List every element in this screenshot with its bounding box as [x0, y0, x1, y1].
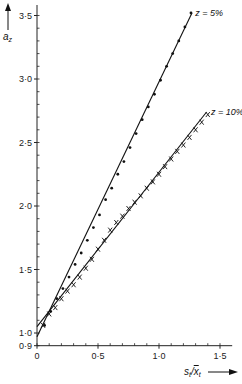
- data-point-cross: [59, 296, 63, 301]
- data-point-dot: [68, 276, 71, 279]
- data-point-cross: [139, 193, 143, 198]
- data-point-cross: [188, 135, 192, 140]
- data-point-dot: [141, 118, 144, 121]
- svg-text:st/xt: st/xt: [184, 366, 202, 378]
- data-point-cross: [53, 305, 57, 310]
- y-tick-label: 1·5: [19, 265, 32, 275]
- data-point-cross: [84, 266, 88, 271]
- scatter-chart: 0·91·01·52·02·53·03·500·51·01·5 z = 5%z …: [0, 0, 242, 384]
- x-tick-label: 1·0: [152, 351, 165, 361]
- x-tick-label: 0: [34, 351, 39, 361]
- data-point-dot: [153, 93, 156, 96]
- axes: [37, 5, 232, 346]
- arrow-right-icon: [229, 369, 238, 375]
- data-point-dot: [116, 173, 119, 176]
- y-tick-label: 2·5: [19, 138, 32, 148]
- data-point-cross: [181, 143, 185, 148]
- data-point-cross: [108, 228, 112, 233]
- data-point-dot: [165, 65, 168, 68]
- data-point-dot: [80, 252, 83, 255]
- y-tick-label: 3·0: [19, 74, 32, 84]
- data-point-dot: [177, 40, 180, 43]
- data-point-cross: [78, 275, 82, 280]
- y-tick-label: 1·0: [19, 328, 32, 338]
- data-point-dot: [190, 12, 193, 15]
- data-point-dot: [171, 52, 174, 55]
- data-point-dot: [129, 146, 132, 149]
- data-point-dot: [159, 79, 162, 82]
- x-axis-label: st/xt: [184, 366, 238, 378]
- data-point-dot: [86, 239, 89, 242]
- data-point-dot: [184, 26, 187, 29]
- svg-text:az: az: [3, 31, 13, 43]
- series-annotation: z = 10%: [210, 107, 242, 117]
- data-point-cross: [66, 289, 70, 294]
- y-tick-label: 0·9: [19, 341, 32, 351]
- data-point-dot: [110, 187, 113, 190]
- y-tick-label: 3·5: [19, 11, 32, 21]
- y-axis-label: az: [3, 3, 13, 43]
- data-point-cross: [96, 247, 100, 252]
- data-point-dot: [123, 160, 126, 163]
- data-point-cross: [200, 120, 204, 125]
- data-points: [41, 12, 210, 328]
- y-tick-label: 2·0: [19, 201, 32, 211]
- data-point-dot: [74, 263, 77, 266]
- arrow-up-icon: [5, 3, 11, 11]
- data-point-dot: [98, 213, 101, 216]
- data-point-cross: [114, 220, 118, 225]
- fit-line: [37, 112, 207, 327]
- fit-line: [37, 13, 192, 337]
- data-point-cross: [206, 112, 210, 117]
- annotations: z = 5%z = 10%: [194, 8, 242, 117]
- data-point-cross: [72, 282, 76, 287]
- x-tick-label: 0·5: [91, 351, 104, 361]
- data-point-dot: [62, 287, 65, 290]
- series-annotation: z = 5%: [194, 8, 223, 18]
- data-point-cross: [145, 186, 149, 191]
- data-point-cross: [194, 127, 198, 132]
- data-point-dot: [92, 226, 95, 229]
- x-tick-label: 1·5: [213, 351, 226, 361]
- data-point-dot: [135, 132, 138, 135]
- data-point-dot: [104, 198, 107, 201]
- data-point-dot: [147, 106, 150, 109]
- data-point-dot: [55, 297, 58, 300]
